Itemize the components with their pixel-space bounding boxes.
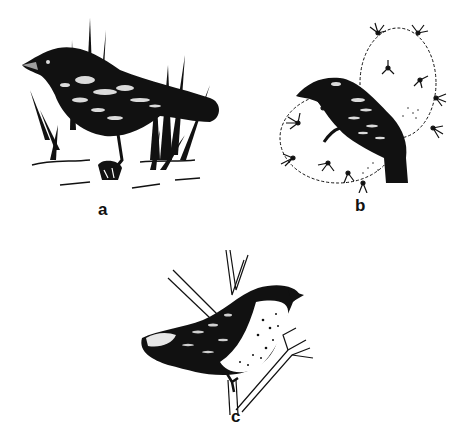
panel-label-c: c — [231, 408, 240, 425]
ground-finch-drawing — [10, 10, 230, 200]
panel-label-a: a — [98, 201, 107, 218]
panel-c-illustration — [128, 240, 328, 415]
panel-label-b: b — [355, 197, 365, 214]
cactus-finch-drawing — [268, 18, 453, 193]
branch-finch-drawing — [128, 240, 328, 415]
panel-b-illustration — [268, 18, 453, 193]
panel-a-illustration — [10, 10, 230, 200]
